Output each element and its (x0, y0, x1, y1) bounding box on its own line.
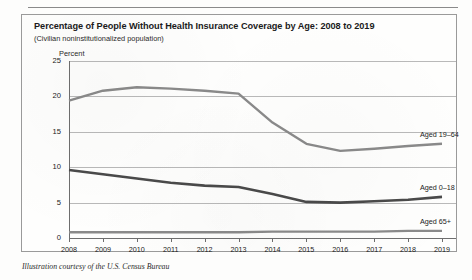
plot-area: 0510152025 20082009201020112012201320142… (22, 15, 458, 253)
x-tick-label: 2010 (120, 245, 154, 254)
x-tick-label: 2012 (188, 245, 222, 254)
x-tick (171, 238, 172, 242)
x-tick (272, 238, 273, 242)
x-tick-label: 2009 (86, 245, 120, 254)
x-tick-label: 2014 (255, 245, 289, 254)
x-tick (239, 238, 240, 242)
x-axis-line (69, 238, 456, 239)
series-line (69, 87, 442, 151)
series-lines-group (22, 15, 458, 253)
figure-caption: Illustration courtesy of the U.S. Census… (22, 262, 169, 271)
x-tick (205, 238, 206, 242)
x-tick-label: 2015 (289, 245, 323, 254)
x-tick (442, 238, 443, 242)
x-tick-label: 2018 (391, 245, 425, 254)
x-tick (103, 238, 104, 242)
series-line (69, 231, 442, 232)
series-label: Aged 0–18 (420, 183, 455, 192)
x-tick-label: 2008 (52, 245, 86, 254)
x-tick (408, 238, 409, 242)
x-tick (374, 238, 375, 242)
x-tick-label: 2013 (222, 245, 256, 254)
x-tick-label: 2011 (154, 245, 188, 254)
series-line (69, 170, 442, 203)
top-divider (28, 7, 458, 8)
series-label: Aged 19–64 (420, 130, 459, 139)
x-tick (137, 238, 138, 242)
series-label: Aged 65+ (420, 217, 451, 226)
screenshot-root: Percentage of People Without Health Insu… (0, 0, 472, 280)
chart-figure: Percentage of People Without Health Insu… (21, 14, 457, 252)
x-tick (69, 238, 70, 242)
x-tick (306, 238, 307, 242)
x-tick-label: 2019 (425, 245, 459, 254)
x-tick (340, 238, 341, 242)
x-tick-label: 2016 (323, 245, 357, 254)
x-tick-label: 2017 (357, 245, 391, 254)
